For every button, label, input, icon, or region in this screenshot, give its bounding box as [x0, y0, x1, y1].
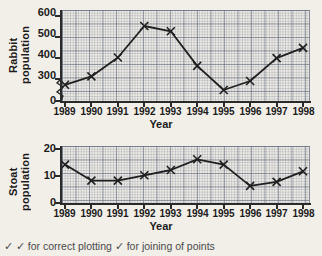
rabbit-x-axis-title: Year: [0, 118, 322, 130]
rabbit-x-axis: [60, 101, 311, 103]
rabbit-ytick-300: 300: [26, 69, 56, 81]
stoat-ytick-20: 20: [30, 142, 56, 154]
stoat-ytick-0: 0: [30, 196, 56, 208]
rabbit-series-line: [62, 10, 310, 102]
rabbit-ytick-500: 500: [26, 27, 56, 39]
stoat-xtick-1998: 1998: [287, 208, 320, 219]
rabbit-axis-break-icon: [54, 79, 68, 101]
stoat-y-axis-label-line1: Stoat: [7, 168, 19, 197]
stoat-ytick-mark-10: [55, 175, 60, 177]
stoat-x-axis: [60, 203, 311, 205]
rabbit-population-chart: Rabbit population 600 500 400 300 0: [0, 0, 322, 132]
stoat-ytick-mark-0: [55, 202, 60, 204]
stoat-plot-area: [62, 146, 310, 204]
rabbit-ytick-400: 400: [26, 48, 56, 60]
rabbit-ytick-mark-300: [55, 78, 60, 80]
stoat-ytick-10: 10: [30, 169, 56, 181]
rabbit-ytick-0: 0: [26, 94, 56, 106]
stoat-x-axis-title: Year: [0, 220, 322, 232]
stoat-ytick-mark-20: [55, 148, 60, 150]
rabbit-y-axis-label-line1: Rabbit: [7, 37, 19, 72]
stoat-series-line: [62, 146, 310, 204]
worksheet-page: Rabbit population 600 500 400 300 0: [0, 0, 322, 256]
rabbit-ytick-600: 600: [26, 6, 56, 18]
rabbit-ytick-mark-600: [55, 15, 60, 17]
rabbit-xtick-1998: 1998: [287, 106, 320, 117]
stoat-population-chart: Stoat population 20 10 0: [0, 136, 322, 236]
stoat-y-axis-label-line2: population: [19, 153, 31, 211]
rabbit-ytick-mark-0: [55, 100, 60, 102]
marking-caption: ✓ ✓ for correct plotting ✓ for joining o…: [4, 240, 215, 252]
rabbit-plot-area: [62, 10, 310, 102]
rabbit-ytick-mark-400: [55, 57, 60, 59]
rabbit-ytick-mark-500: [55, 36, 60, 38]
stoat-y-axis: [60, 146, 62, 204]
